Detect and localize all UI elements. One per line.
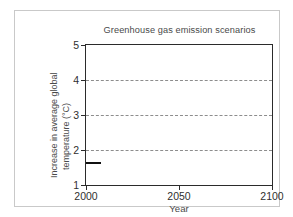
- chart-title: Greenhouse gas emission scenarios: [85, 25, 274, 36]
- y-tick-label-5: 5: [65, 40, 79, 51]
- y-tick-label-1: 1: [65, 180, 79, 191]
- gridline-y-4: [86, 80, 272, 81]
- x-axis-title: Year: [85, 203, 273, 214]
- y-tick-mark-5: [81, 45, 86, 46]
- y-tick-label-3: 3: [65, 110, 79, 121]
- y-tick-mark-3: [81, 115, 86, 116]
- figure-frame: Greenhouse gas emission scenarios Increa…: [14, 10, 280, 207]
- y-tick-mark-2: [81, 150, 86, 151]
- y-tick-label-4: 4: [65, 75, 79, 86]
- y-axis-title-line-1: Increase in average global: [49, 72, 59, 178]
- series-segment-observed-baseline: [86, 162, 101, 164]
- y-tick-mark-4: [81, 80, 86, 81]
- gridline-y-2: [86, 150, 272, 151]
- gridline-y-3: [86, 115, 272, 116]
- x-tick-label-2050: 2050: [167, 191, 190, 202]
- x-tick-label-2000: 2000: [74, 191, 97, 202]
- y-tick-label-2: 2: [65, 145, 79, 156]
- x-tick-label-2100: 2100: [260, 191, 283, 202]
- plot-area: 12345 200020502100: [85, 44, 273, 186]
